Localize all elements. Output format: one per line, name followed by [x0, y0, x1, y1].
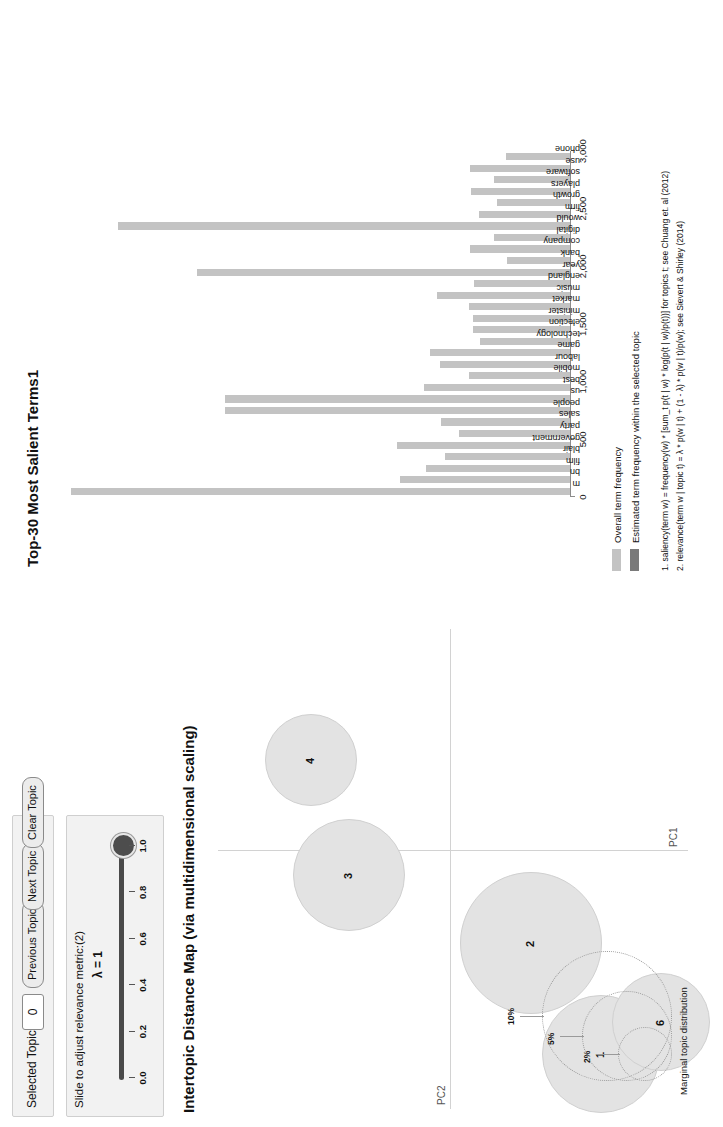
- intertopic-distance-map[interactable]: PC1 PC2 12346 Marginal topic distributio…: [200, 619, 705, 1119]
- bar[interactable]: [440, 361, 570, 368]
- bar[interactable]: [469, 372, 570, 379]
- slider-tick: [129, 1031, 135, 1032]
- term-label[interactable]: growth: [553, 190, 580, 200]
- term-label[interactable]: m: [573, 479, 581, 489]
- slider-tick: [129, 1077, 135, 1078]
- term-label[interactable]: firm: [565, 202, 580, 212]
- term-label[interactable]: bank: [560, 248, 580, 258]
- term-label[interactable]: blair: [563, 444, 580, 454]
- selected-topic-input[interactable]: 0: [22, 994, 44, 1030]
- footnote-relevance: 2. relevance(term w | topic t) = λ * p(w…: [675, 221, 685, 571]
- overall-frequency-swatch: [612, 549, 621, 571]
- term-label[interactable]: use: [565, 156, 580, 166]
- term-label[interactable]: game: [557, 340, 580, 350]
- selected-topic-label: Selected Topic:: [25, 1027, 39, 1108]
- previous-topic-button[interactable]: Previous Topic: [22, 901, 44, 988]
- topic-circle-label: 3: [342, 873, 354, 879]
- term-label[interactable]: bn: [570, 467, 580, 477]
- term-label[interactable]: labour: [555, 352, 580, 362]
- marginal-tick: [520, 1016, 544, 1017]
- next-topic-button[interactable]: Next Topic: [22, 843, 44, 910]
- term-label[interactable]: us: [570, 386, 580, 396]
- slider-tick-label: 0.0: [137, 1071, 148, 1084]
- topic-circle-label: 4: [304, 758, 316, 764]
- slider-tick: [129, 845, 135, 846]
- bar[interactable]: [506, 153, 570, 160]
- bar[interactable]: [71, 488, 570, 495]
- relevance-slider-label: Slide to adjust relevance metric:(2): [73, 931, 85, 1108]
- relevance-slider-track[interactable]: [119, 848, 124, 1080]
- bar[interactable]: [441, 418, 570, 425]
- overall-frequency-label: Overall term frequency: [612, 447, 623, 543]
- marginal-legend-title: Marginal topic distribution: [678, 987, 689, 1095]
- term-label[interactable]: election: [549, 317, 580, 327]
- term-label[interactable]: players: [551, 179, 580, 189]
- term-label[interactable]: market: [552, 294, 580, 304]
- term-label[interactable]: phone: [555, 144, 580, 154]
- term-label[interactable]: music: [556, 283, 580, 293]
- bar[interactable]: [497, 199, 570, 206]
- term-label[interactable]: people: [553, 398, 580, 408]
- footnote-saliency: 1. saliency(term w) = frequency(w) * [su…: [660, 171, 670, 571]
- pyldavis-page: Selected Topic: 0 Previous Topic Next To…: [0, 0, 723, 1127]
- map-vertical-axis: [218, 850, 688, 851]
- term-label[interactable]: digital: [556, 225, 580, 235]
- bar[interactable]: [225, 395, 570, 402]
- bar[interactable]: [470, 245, 570, 252]
- topic-control-panel: Selected Topic: 0 Previous Topic Next To…: [12, 815, 54, 1117]
- salient-terms-title: Top-30 Most Salient Terms1: [24, 370, 41, 567]
- bar[interactable]: [445, 453, 570, 460]
- bar[interactable]: [400, 476, 570, 483]
- slider-tick: [129, 938, 135, 939]
- term-label[interactable]: sales: [559, 410, 580, 420]
- lambda-value-label: λ = 1: [91, 951, 105, 978]
- relevance-slider-panel: Slide to adjust relevance metric:(2) λ =…: [66, 815, 164, 1117]
- intertopic-map-title: Intertopic Distance Map (via multidimens…: [180, 725, 197, 1113]
- map-pc1-label: PC1: [668, 828, 679, 847]
- rotated-page-wrapper: Selected Topic: 0 Previous Topic Next To…: [0, 0, 723, 1127]
- marginal-tick-label: 10%: [506, 1008, 516, 1025]
- map-horizontal-axis: [450, 629, 451, 1109]
- term-label[interactable]: minister: [548, 306, 580, 316]
- bar[interactable]: [426, 465, 570, 472]
- bar[interactable]: [437, 292, 570, 299]
- slider-tick-label: 0.2: [137, 1025, 148, 1038]
- bar[interactable]: [225, 407, 570, 414]
- bar[interactable]: [118, 222, 570, 229]
- estimated-frequency-label: Estimated term frequency within the sele…: [630, 331, 641, 543]
- marginal-ring: [542, 951, 672, 1081]
- map-pc2-label: PC2: [436, 1086, 447, 1105]
- slider-tick-label: 1.0: [137, 839, 148, 852]
- bar[interactable]: [424, 384, 570, 391]
- clear-topic-button[interactable]: Clear Topic: [22, 777, 44, 848]
- term-label[interactable]: would: [556, 213, 580, 223]
- bar[interactable]: [430, 349, 570, 356]
- slider-tick: [129, 891, 135, 892]
- term-label[interactable]: year: [562, 260, 580, 270]
- term-label[interactable]: best: [563, 375, 580, 385]
- bar[interactable]: [507, 257, 570, 264]
- bar-plot-area: [50, 151, 570, 497]
- term-label[interactable]: company: [543, 237, 580, 247]
- slider-tick-label: 0.8: [137, 886, 148, 899]
- term-label[interactable]: software: [546, 167, 580, 177]
- axis-tick: [571, 496, 575, 497]
- salient-terms-chart: 05001,0001,5002,0002,5003,000 mbnfilmbla…: [50, 141, 610, 571]
- slider-tick: [129, 984, 135, 985]
- axis-tick-label: 0: [577, 494, 588, 499]
- term-label[interactable]: england: [548, 271, 580, 281]
- slider-tick-label: 0.6: [137, 932, 148, 945]
- estimated-frequency-swatch: [630, 549, 639, 571]
- bar[interactable]: [197, 269, 570, 276]
- term-label[interactable]: technology: [536, 329, 580, 339]
- topic-circle-label: 2: [524, 941, 536, 947]
- term-label[interactable]: mobile: [553, 363, 580, 373]
- marginal-topic-distribution-legend: Marginal topic distribution 2%5%10%: [540, 921, 700, 1101]
- term-label[interactable]: government: [532, 433, 580, 443]
- slider-tick-label: 0.4: [137, 979, 148, 992]
- term-label[interactable]: party: [560, 421, 580, 431]
- term-label[interactable]: film: [566, 456, 580, 466]
